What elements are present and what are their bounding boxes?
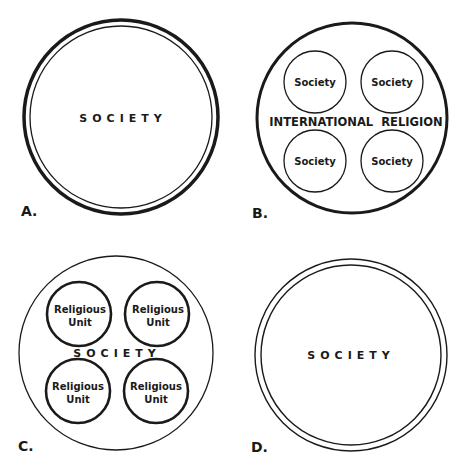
panel-d: SOCIETY D. [251,259,447,455]
panel-d-center-label: SOCIETY [307,349,394,362]
panel-c-unit-label-2-line2: Unit [146,317,170,328]
panel-a: SOCIETY A. [21,20,218,219]
panel-c: Religious Unit Religious Unit Religious … [18,256,213,454]
panel-b-center-label: INTERNATIONAL RELIGION [269,115,442,129]
panel-b-society-label-2: Society [371,77,413,88]
panel-c-unit-label-2-line1: Religious [132,304,184,315]
panel-c-letter: C. [18,438,34,454]
panel-c-unit-label-3-line2: Unit [66,394,90,405]
panel-b: Society Society Society Society INTERNAT… [252,23,447,221]
panel-d-letter: D. [251,439,268,455]
panel-b-society-label-4: Society [371,156,413,167]
panel-c-unit-label-3-line1: Religious [52,381,104,392]
panel-c-unit-label-1-line2: Unit [68,317,92,328]
panel-a-center-label: SOCIETY [79,112,166,125]
diagram-canvas: SOCIETY A. Society Society Society Socie… [0,0,469,468]
panel-c-unit-label-1-line1: Religious [54,304,106,315]
panel-b-society-label-3: Society [294,156,336,167]
panel-b-society-label-1: Society [294,77,336,88]
panel-b-letter: B. [252,205,268,221]
panel-a-letter: A. [21,203,37,219]
panel-c-center-label: SOCIETY [73,347,160,360]
panel-c-unit-label-4-line1: Religious [130,381,182,392]
panel-c-unit-label-4-line2: Unit [144,394,168,405]
